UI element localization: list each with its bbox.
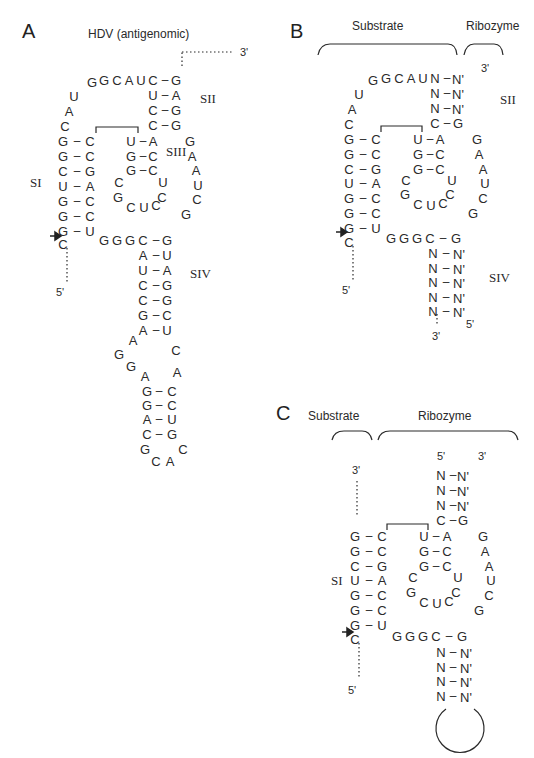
nucleotide: C: [377, 544, 386, 559]
panel-a-title: HDV (antigenomic): [88, 27, 189, 41]
panel-b-3prime-bottom-label: 3': [432, 330, 440, 342]
nucleotide: G: [350, 529, 360, 544]
nucleotide: C: [394, 71, 403, 86]
nucleotide: A: [166, 454, 175, 469]
nucleotide: U: [419, 529, 428, 544]
base-pair-bond: –: [162, 118, 169, 132]
base-pair-bond: –: [140, 149, 147, 163]
nucleotide: N': [453, 291, 465, 306]
panel-c-5prime-substrate-label: 5': [348, 684, 356, 696]
base-pair-bond: –: [446, 629, 453, 643]
base-pair-bond: –: [450, 483, 457, 497]
base-pair-bond: –: [360, 132, 367, 146]
nucleotide: N': [457, 499, 469, 514]
panel-b-substrate-bracket: [318, 44, 457, 55]
base-pair-bond: –: [366, 588, 373, 602]
panel-c-loop-icon: [436, 709, 484, 752]
nucleotide: G: [350, 618, 360, 633]
nucleotide: C: [344, 162, 353, 177]
nucleotide: C: [344, 235, 353, 250]
nucleotide: C: [431, 629, 440, 644]
panel-a-stem-siii-label: SIII: [166, 144, 186, 159]
panel-c-3prime-substrate-label: 3': [352, 464, 360, 476]
nucleotide: G: [126, 359, 136, 374]
panel-c: C Substrate Ribozyme 5' 3' 3' SI 5' N–N'…: [276, 402, 518, 752]
base-pair-bond: –: [153, 233, 160, 247]
nucleotide: U: [344, 176, 353, 191]
nucleotide: C: [85, 209, 94, 224]
nucleotide: C: [484, 588, 493, 603]
base-pair-bond: –: [444, 116, 451, 130]
base-pair-bond: –: [162, 88, 169, 102]
nucleotide: U: [58, 179, 67, 194]
nucleotide: A: [348, 102, 357, 117]
nucleotide: G: [99, 73, 109, 88]
base-pair-bond: –: [74, 149, 81, 163]
base-pair-bond: –: [433, 559, 440, 573]
nucleotide: G: [162, 278, 172, 293]
panel-c-ribozyme-label: Ribozyme: [418, 409, 472, 423]
nucleotide: U: [126, 134, 135, 149]
nucleotide: C: [371, 147, 380, 162]
nucleotide: N: [430, 101, 439, 116]
panel-c-substrate-label: Substrate: [308, 409, 360, 423]
panel-b-ribozyme-bracket: [464, 44, 503, 55]
nucleotide: A: [86, 179, 95, 194]
nucleotide: G: [457, 629, 467, 644]
nucleotide: G: [58, 134, 68, 149]
nucleotide: G: [171, 118, 181, 133]
nucleotide: G: [113, 190, 123, 205]
nucleotide: N: [428, 290, 437, 305]
nucleotide: G: [413, 147, 423, 162]
nucleotide: C: [408, 570, 417, 585]
nucleotide: G: [87, 75, 97, 90]
nucleotide: C: [167, 398, 176, 413]
nucleotide: G: [458, 513, 468, 528]
nucleotide: G: [474, 603, 484, 618]
nucleotide: A: [65, 104, 74, 119]
nucleotide: C: [401, 173, 410, 188]
panel-a-5prime-label: 5': [56, 286, 64, 298]
nucleotide: G: [412, 231, 422, 246]
nucleotide: A: [129, 333, 138, 348]
nucleotide: N': [460, 661, 472, 676]
nucleotide: N': [453, 262, 465, 277]
nucleotide: N': [453, 276, 465, 291]
nucleotide: N': [453, 305, 465, 320]
base-pair-bond: –: [140, 163, 147, 177]
nucleotide: C: [436, 513, 445, 528]
base-pair-bond: –: [153, 323, 160, 337]
nucleotide: N': [457, 469, 469, 484]
nucleotide: U: [162, 248, 171, 263]
base-pair-bond: –: [427, 147, 434, 161]
nucleotide: C: [151, 454, 160, 469]
base-pair-bond: –: [450, 498, 457, 512]
base-pair-bond: –: [156, 427, 163, 441]
panel-a-stem-siv-label: SIV: [190, 266, 212, 281]
panel-b-sequence: GGCAUN–N'UACN–N'N–N'C–GG–CG–CC–GU–AG–CG–…: [344, 71, 490, 320]
panel-c-5prime-top-label: 5': [437, 450, 445, 462]
nucleotide: A: [149, 134, 158, 149]
nucleotide: N': [452, 72, 464, 87]
nucleotide: U: [413, 132, 422, 147]
panel-b-5prime-bottom-label: 5': [466, 318, 474, 330]
nucleotide: N': [452, 87, 464, 102]
nucleotide: C: [138, 293, 147, 308]
nucleotide: A: [436, 132, 445, 147]
nucleotide: G: [162, 293, 172, 308]
nucleotide: G: [114, 347, 124, 362]
nucleotide: G: [344, 206, 354, 221]
nucleotide: G: [125, 233, 135, 248]
base-pair-bond: –: [444, 101, 451, 115]
base-pair-bond: –: [162, 73, 169, 87]
nucleotide: G: [468, 206, 478, 221]
base-pair-bond: –: [450, 645, 457, 659]
nucleotide: U: [162, 323, 171, 338]
nucleotide: C: [138, 233, 147, 248]
nucleotide: G: [58, 149, 68, 164]
nucleotide: C: [148, 73, 157, 88]
nucleotide: A: [172, 88, 181, 103]
nucleotide: U: [167, 412, 176, 427]
nucleotide: C: [162, 308, 171, 323]
nucleotide: C: [178, 442, 187, 457]
